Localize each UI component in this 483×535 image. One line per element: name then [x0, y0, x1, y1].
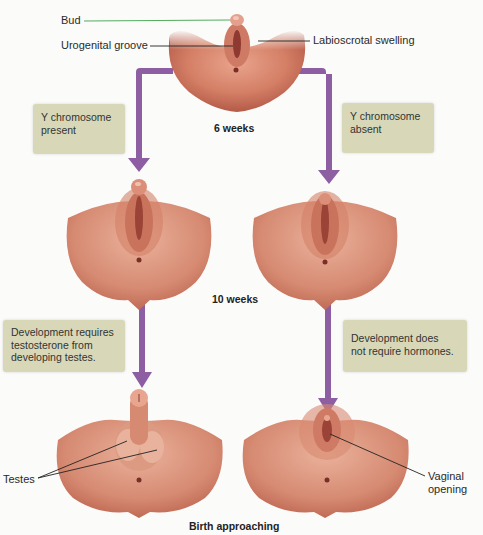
- box-female-development: Development does not require hormones.: [343, 320, 467, 372]
- figure-10-weeks-male: [67, 179, 212, 310]
- arrow-10w-to-male-head: [132, 372, 152, 388]
- label-urogenital-groove: Urogenital groove: [61, 39, 148, 52]
- label-vaginal-opening-line2: opening: [428, 483, 467, 496]
- box-text: absent: [350, 123, 426, 136]
- box-y-chromosome-present: Y chromosome present: [33, 104, 125, 154]
- stage-label-10-weeks: 10 weeks: [212, 293, 258, 305]
- stage-label-birth-approaching: Birth approaching: [189, 520, 279, 532]
- figure-10-weeks-female: [253, 191, 398, 310]
- box-text: testosterone from: [11, 339, 117, 352]
- arrow-6w-to-male: [128, 68, 173, 172]
- box-text: Y chromosome: [350, 110, 426, 123]
- label-vaginal-opening-line1: Vaginal: [428, 470, 467, 483]
- label-bud: Bud: [61, 14, 81, 27]
- diagram-canvas: [0, 0, 483, 535]
- figure-birth-female: [243, 404, 409, 518]
- box-y-chromosome-absent: Y chromosome absent: [342, 103, 434, 153]
- figure-6-weeks: [169, 14, 305, 112]
- box-text: not require hormones.: [351, 345, 459, 358]
- bud-leader: [84, 20, 230, 21]
- figure-birth-male: [57, 389, 223, 518]
- box-male-development: Development requires testosterone from d…: [3, 320, 125, 372]
- box-text: Y chromosome: [41, 111, 117, 124]
- stage-label-6-weeks: 6 weeks: [214, 122, 254, 134]
- label-testes: Testes: [3, 473, 35, 486]
- arrow-6w-to-female: [297, 68, 340, 184]
- label-vaginal-opening: Vaginal opening: [428, 470, 467, 496]
- label-labioscrotal-swelling: Labioscrotal swelling: [313, 34, 415, 47]
- box-text: Development does: [351, 332, 459, 345]
- box-text: Development requires: [11, 326, 117, 339]
- box-text: present: [41, 124, 117, 137]
- arrow-10w-to-male-shaft: [139, 304, 145, 374]
- box-text: developing testes.: [11, 351, 117, 364]
- arrow-10w-to-female-shaft: [325, 304, 331, 400]
